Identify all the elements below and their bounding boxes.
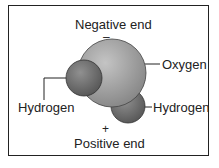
positive-sign: + — [102, 123, 109, 135]
hydrogen-right-label: Hydrogen — [153, 101, 209, 114]
hydrogen-left-leader-line — [44, 78, 66, 100]
negative-sign: – — [103, 31, 110, 43]
positive-end-label: Positive end — [74, 137, 145, 150]
hydrogen-left-label: Hydrogen — [18, 101, 74, 114]
hydrogen-left-atom — [66, 60, 102, 96]
negative-end-label: Negative end — [75, 18, 152, 31]
oxygen-label: Oxygen — [162, 58, 207, 71]
